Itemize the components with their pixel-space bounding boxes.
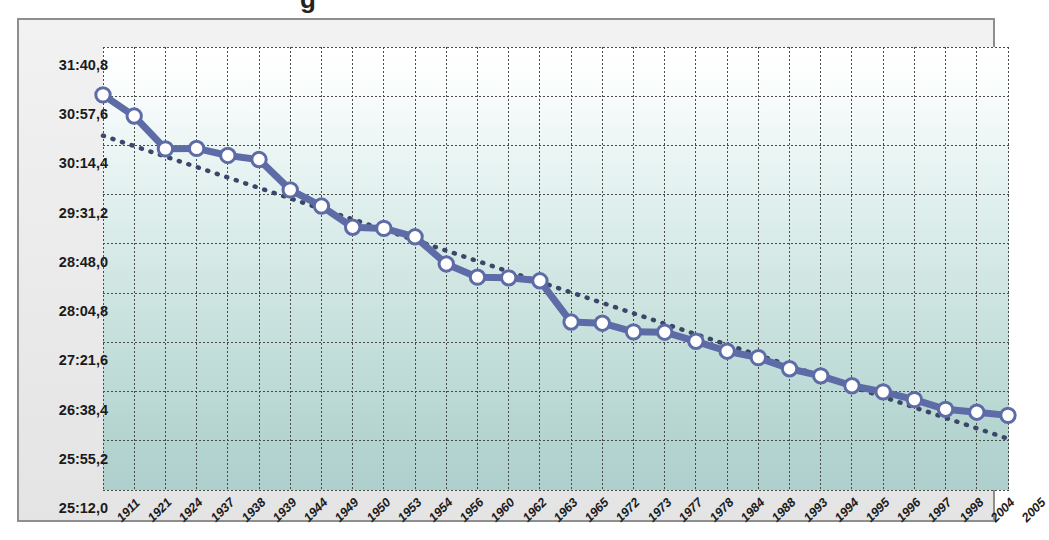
x-axis-tick-label: 1954	[426, 495, 456, 525]
data-point	[658, 325, 672, 339]
x-axis-tick-label: 1972	[613, 495, 643, 525]
data-point	[533, 274, 547, 288]
x-axis-tick-label: 1956	[457, 495, 487, 525]
y-axis-tick-label: 30:14,4	[44, 155, 108, 171]
x-axis-tick-label: 1996	[894, 495, 924, 525]
x-axis-tick-label: 1973	[645, 495, 675, 525]
x-axis-tick-label: 1953	[395, 495, 425, 525]
y-axis-tick-label: 26:38,4	[44, 402, 108, 418]
x-axis-tick-label: 2005	[1019, 495, 1049, 525]
y-axis-tick-label: 30:57,6	[44, 106, 108, 122]
record-markers	[96, 88, 1015, 423]
y-axis-tick-label: 28:48,0	[44, 254, 108, 270]
x-axis-tick-label: 1944	[301, 495, 331, 525]
x-axis-tick-label: 1965	[582, 495, 612, 525]
y-axis-tick-label: 28:04,8	[44, 303, 108, 319]
y-axis-tick-label: 25:12,0	[44, 500, 108, 516]
data-point	[189, 141, 203, 155]
data-point	[782, 362, 796, 376]
x-axis-tick-label: 1994	[832, 495, 862, 525]
y-axis-tick-label: 29:31,2	[44, 205, 108, 221]
data-point	[377, 221, 391, 235]
plot-area	[103, 47, 1009, 490]
data-point	[595, 316, 609, 330]
x-axis-tick-label: 1962	[520, 495, 550, 525]
data-point	[564, 315, 578, 329]
plot-canvas	[103, 47, 1009, 490]
data-point	[626, 325, 640, 339]
record-line	[103, 95, 1008, 416]
data-point	[221, 148, 235, 162]
data-point	[876, 385, 890, 399]
data-point	[907, 392, 921, 406]
horizontal-gridlines	[103, 47, 1009, 490]
data-point	[751, 350, 765, 364]
x-axis-tick-label: 1993	[801, 495, 831, 525]
data-point	[720, 344, 734, 358]
data-point	[470, 270, 484, 284]
data-point	[96, 88, 110, 102]
y-axis-tick-label: 27:21,6	[44, 352, 108, 368]
data-point	[314, 199, 328, 213]
x-axis-tick-label: 1939	[270, 495, 300, 525]
data-point	[814, 369, 828, 383]
x-axis-tick-label: 1997	[925, 495, 955, 525]
data-point	[252, 152, 266, 166]
x-axis-tick-label: 1938	[239, 495, 269, 525]
data-point	[439, 257, 453, 271]
data-point	[845, 379, 859, 393]
data-point	[1001, 408, 1015, 422]
data-point	[938, 402, 952, 416]
y-axis-tick-label: 31:40,8	[44, 57, 108, 73]
x-axis-tick-label: 1960	[488, 495, 518, 525]
data-point	[408, 230, 422, 244]
data-point	[689, 334, 703, 348]
x-axis-tick-label: 1921	[145, 495, 175, 525]
data-point	[970, 405, 984, 419]
chart-frame: 25:12,025:55,226:38,427:21,628:04,828:48…	[17, 18, 995, 522]
x-axis-tick-label: 1924	[176, 495, 206, 525]
x-axis-tick-label: 2004	[988, 495, 1018, 525]
data-point	[158, 142, 172, 156]
vertical-gridlines	[103, 47, 1008, 490]
x-axis-tick-label: 1988	[769, 495, 799, 525]
x-axis-tick-label: 1949	[332, 495, 362, 525]
data-point	[283, 183, 297, 197]
x-axis-tick-label: 1978	[707, 495, 737, 525]
cropped-title-text: g	[300, 0, 317, 15]
x-axis-tick-label: 1998	[957, 495, 987, 525]
data-point	[345, 220, 359, 234]
x-axis-tick-label: 1984	[738, 495, 768, 525]
y-axis-tick-label: 25:55,2	[44, 451, 108, 467]
x-axis-tick-label: 1963	[551, 495, 581, 525]
x-axis-tick-label: 1911	[114, 496, 143, 525]
data-point	[127, 109, 141, 123]
x-axis-tick-label: 1977	[676, 495, 706, 525]
data-point	[501, 271, 515, 285]
x-axis-tick-label: 1995	[863, 495, 893, 525]
x-axis-tick-label: 1950	[364, 495, 394, 525]
x-axis-tick-label: 1937	[208, 495, 238, 525]
